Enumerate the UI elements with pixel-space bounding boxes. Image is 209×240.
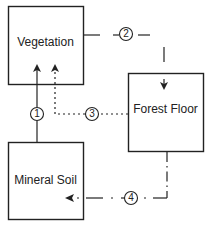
forest-floor-label: Forest Floor	[128, 102, 203, 116]
flow-4-number: 4	[124, 191, 138, 205]
mineral-soil-label: Mineral Soil	[8, 173, 83, 187]
vegetation-label: Vegetation	[8, 35, 83, 49]
flow-3-number: 3	[85, 107, 99, 121]
flow-1-number: 1	[30, 107, 44, 121]
flow-2-number: 2	[119, 27, 133, 41]
